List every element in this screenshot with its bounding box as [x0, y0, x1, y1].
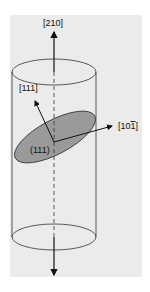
axis-top-label: [210]: [43, 18, 63, 28]
normal-vector-label: [111]: [19, 83, 38, 93]
in-plane-vector-label: [101]: [118, 121, 138, 131]
crystal-orientation-diagram: [210] [111] [101] (111): [0, 0, 150, 292]
plane-label: (111): [30, 145, 50, 155]
